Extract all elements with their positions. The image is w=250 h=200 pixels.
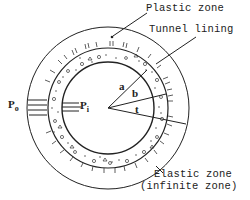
elastic-zone-label: Elastic zone [154,168,232,180]
plastic-zone-leader [113,13,147,36]
inner-pressure-subscript: i [87,105,89,114]
radius-t-label: t [135,103,139,115]
elastic-zone-note: (infinite zone) [140,180,238,192]
inner-pressure-arrows [62,103,81,111]
radius-a-label: a [119,80,125,92]
radius-t-line [108,108,186,124]
radius-a-line [108,70,147,108]
outer-pressure-subscript: o [15,104,19,113]
outer-pressure-symbol: P [8,98,15,110]
plastic-zone-dot [111,36,114,39]
inner-pressure-label: Pi [80,99,89,114]
radius-b-label: b [132,87,138,99]
tunnel-lining-label: Tunnel lining [149,23,234,35]
inner-pressure-symbol: P [80,99,87,111]
tunnel-lining-leader [156,37,196,64]
outer-pressure-arrows [28,100,47,115]
tunnel-lining-diagram: Plastic zone Tunnel lining Elastic zone … [0,0,250,200]
plastic-zone-label: Plastic zone [146,2,224,14]
lining-dots [51,54,161,162]
outer-pressure-label: Po [8,98,19,113]
